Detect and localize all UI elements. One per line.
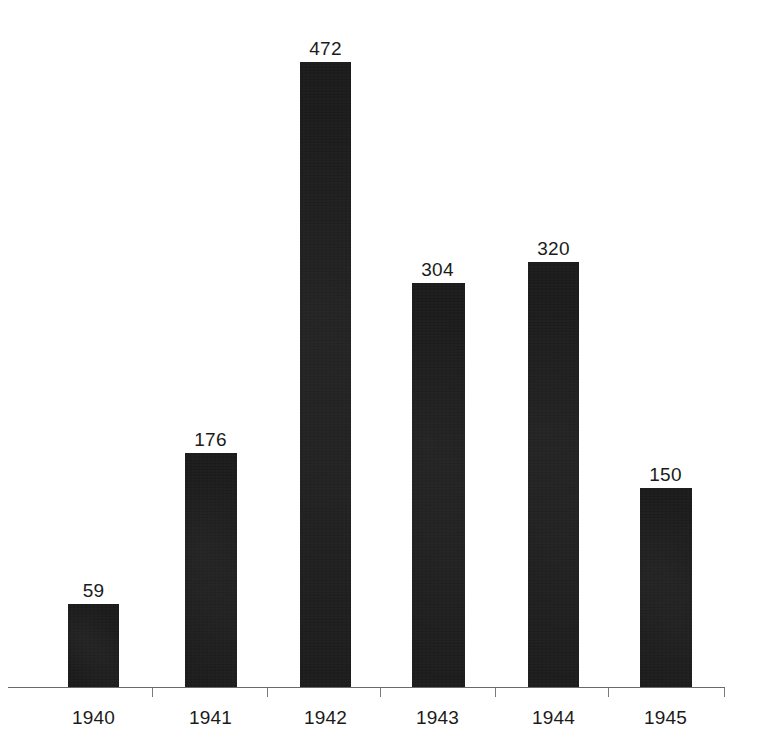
plot-area: 59 176 472 304 320 150 1940 1941 1942 19… xyxy=(0,0,759,750)
value-label-1940: 59 xyxy=(43,581,144,600)
category-label-1943: 1943 xyxy=(387,708,488,727)
category-label-1945: 1945 xyxy=(615,708,716,727)
value-label-1941: 176 xyxy=(160,430,261,449)
x-axis-tick-5 xyxy=(608,688,609,697)
category-label-1940: 1940 xyxy=(43,708,144,727)
category-label-1941: 1941 xyxy=(160,708,261,727)
value-label-1943: 304 xyxy=(387,260,488,279)
bar-1943 xyxy=(412,283,465,687)
category-label-1942: 1942 xyxy=(275,708,376,727)
x-axis-tick-2 xyxy=(267,688,268,697)
x-axis-tick-4 xyxy=(495,688,496,697)
value-label-1944: 320 xyxy=(503,239,604,258)
bar-chart: 59 176 472 304 320 150 1940 1941 1942 19… xyxy=(0,0,759,750)
value-label-1942: 472 xyxy=(275,39,376,58)
bar-1941 xyxy=(185,453,237,687)
x-axis-tick-1 xyxy=(152,688,153,697)
x-axis-tick-3 xyxy=(380,688,381,697)
x-axis-line xyxy=(8,687,725,688)
bar-1945 xyxy=(640,488,692,687)
category-label-1944: 1944 xyxy=(503,708,604,727)
bar-1940 xyxy=(68,604,119,687)
value-label-1945: 150 xyxy=(615,465,716,484)
bar-1944 xyxy=(528,262,579,687)
x-axis-tick-6 xyxy=(724,688,725,697)
bar-1942 xyxy=(300,62,351,687)
